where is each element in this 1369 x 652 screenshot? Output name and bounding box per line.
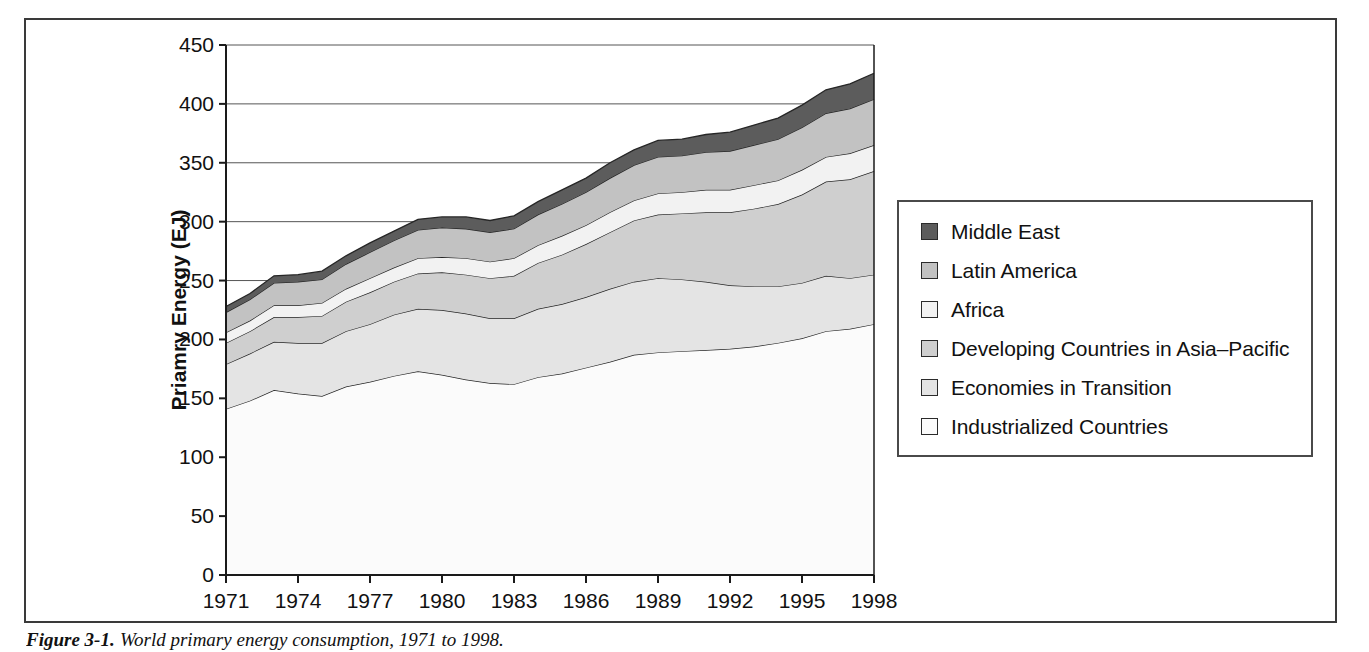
y-tick-label: 400 [179, 92, 214, 115]
chart-area: 0501001502002503003504004501971197419771… [26, 20, 926, 625]
legend-swatch-middle-east [921, 223, 938, 240]
x-tick-label: 1989 [635, 589, 682, 612]
legend-item-industrialized-countries[interactable]: Industrialized Countries [921, 407, 1311, 446]
legend-label-economies-in-transition: Economies in Transition [951, 376, 1172, 400]
legend-label-africa: Africa [951, 298, 1004, 322]
x-tick-label: 1998 [851, 589, 898, 612]
x-tick-label: 1977 [347, 589, 394, 612]
x-tick-label: 1986 [563, 589, 610, 612]
x-tick-label: 1980 [419, 589, 466, 612]
figure-caption-number: Figure 3-1. [26, 629, 115, 650]
figure-caption-text: World primary energy consumption, 1971 t… [120, 629, 504, 650]
x-tick-label: 1995 [779, 589, 826, 612]
y-tick-label: 100 [179, 445, 214, 468]
y-tick-label: 450 [179, 33, 214, 56]
chart-legend: Middle East Latin America Africa Develop… [897, 200, 1313, 457]
legend-label-industrialized-countries: Industrialized Countries [951, 415, 1168, 439]
legend-swatch-africa [921, 301, 938, 318]
legend-swatch-developing-asia-pacific [921, 340, 938, 357]
legend-swatch-latin-america [921, 262, 938, 279]
figure-frame: 0501001502002503003504004501971197419771… [24, 18, 1337, 623]
legend-item-developing-asia-pacific[interactable]: Developing Countries in Asia–Pacific [921, 329, 1311, 368]
legend-label-middle-east: Middle East [951, 220, 1060, 244]
stacked-area-chart: 0501001502002503003504004501971197419771… [26, 20, 926, 625]
legend-swatch-industrialized-countries [921, 418, 938, 435]
x-tick-label: 1971 [203, 589, 250, 612]
y-tick-label: 350 [179, 151, 214, 174]
y-tick-label: 0 [202, 563, 214, 586]
y-tick-label: 50 [191, 504, 214, 527]
legend-label-latin-america: Latin America [951, 259, 1077, 283]
x-tick-label: 1992 [707, 589, 754, 612]
legend-item-latin-america[interactable]: Latin America [921, 251, 1311, 290]
figure-root: 0501001502002503003504004501971197419771… [0, 0, 1369, 652]
legend-label-developing-asia-pacific: Developing Countries in Asia–Pacific [951, 337, 1289, 361]
legend-item-economies-in-transition[interactable]: Economies in Transition [921, 368, 1311, 407]
y-axis-title: Priamry Energy (EJ) [167, 210, 190, 411]
legend-item-middle-east[interactable]: Middle East [921, 212, 1311, 251]
x-tick-label: 1974 [275, 589, 322, 612]
figure-caption: Figure 3-1. World primary energy consump… [26, 629, 1326, 652]
legend-item-africa[interactable]: Africa [921, 290, 1311, 329]
legend-swatch-economies-in-transition [921, 379, 938, 396]
x-tick-label: 1983 [491, 589, 538, 612]
